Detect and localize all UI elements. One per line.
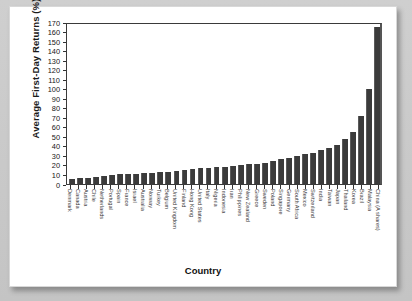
bar-cell — [164, 24, 172, 184]
x-axis-label-cell: Finland — [180, 189, 188, 267]
x-axis-label-cell: Mexico — [301, 189, 309, 267]
bar-cell — [293, 24, 301, 184]
bar-cell — [341, 24, 349, 184]
x-axis-label-cell: Taiwan — [326, 189, 334, 267]
x-axis-label: Greece — [254, 189, 260, 207]
bar-cell — [277, 24, 285, 184]
y-axis-tick-label: 10 — [52, 171, 63, 178]
bar-cell — [116, 24, 124, 184]
bar-cell — [229, 24, 237, 184]
x-axis-label-cell: Philippines — [236, 189, 244, 267]
bar-cell — [148, 24, 156, 184]
bar-cell — [365, 24, 373, 184]
x-axis-label: Israel — [132, 189, 138, 203]
bar — [77, 178, 83, 184]
y-axis-tick-label: 70 — [52, 114, 63, 121]
x-axis-label: Italy — [205, 189, 211, 199]
y-axis-tick-label: 150 — [48, 38, 63, 45]
bar-cell — [245, 24, 253, 184]
bar — [206, 168, 212, 184]
bar-cell — [253, 24, 261, 184]
y-axis-tick-label: 20 — [52, 162, 63, 169]
bar — [358, 116, 364, 184]
x-axis-label: Belgium — [164, 189, 170, 209]
bar — [334, 145, 340, 184]
x-axis-label-cell: Israel — [131, 189, 139, 267]
x-axis-labels: DenmarkCanadaAustriaChileNetherlandsPort… — [66, 189, 382, 267]
bar — [318, 150, 324, 184]
x-axis-label: South Africa — [294, 189, 300, 219]
x-axis-label-cell: India — [317, 189, 325, 267]
x-axis-label-cell: Norway — [147, 189, 155, 267]
bar — [350, 132, 356, 184]
bar — [214, 167, 220, 184]
x-axis-label-cell: South Africa — [293, 189, 301, 267]
y-axis-tick-label: 30 — [52, 152, 63, 159]
bar — [366, 89, 372, 184]
x-axis-label-cell: Singapore — [277, 189, 285, 267]
x-axis-label: Spain — [116, 189, 122, 203]
x-axis-label-cell: Poland — [269, 189, 277, 267]
bar — [326, 148, 332, 184]
y-axis-tick-label: 130 — [48, 57, 63, 64]
x-axis-label: Denmark — [67, 189, 73, 212]
x-axis-label: China (A shares) — [375, 189, 381, 231]
bar — [85, 178, 91, 184]
bar — [109, 175, 115, 184]
bar — [270, 161, 276, 184]
y-axis-tick-label: 110 — [48, 76, 63, 83]
x-axis-label: Turkey — [156, 189, 162, 206]
bar — [278, 159, 284, 184]
x-axis-label: Sweden — [262, 189, 268, 209]
bar — [230, 166, 236, 184]
x-axis-label-cell: Netherlands — [98, 189, 106, 267]
bar — [246, 164, 252, 184]
x-axis-label-cell: Australia — [139, 189, 147, 267]
bar — [222, 167, 228, 184]
x-axis-label: Singapore — [278, 189, 284, 215]
bar — [286, 158, 292, 184]
x-axis-label: Germany — [286, 189, 292, 212]
y-axis-tick-label: 80 — [52, 105, 63, 112]
x-axis-label-cell: Belgium — [163, 189, 171, 267]
x-axis-label: India — [318, 189, 324, 201]
bar — [190, 169, 196, 184]
x-axis-label: Japan — [335, 189, 341, 204]
x-axis-label: Malaysia — [367, 189, 373, 211]
y-axis-tick-label: 60 — [52, 124, 63, 131]
bar-cell — [269, 24, 277, 184]
x-axis-label: Brazil — [359, 189, 365, 203]
bar — [101, 176, 107, 184]
bar-cell — [357, 24, 365, 184]
bar-cell — [100, 24, 108, 184]
x-axis-label: Australia — [140, 189, 146, 211]
bar-cell — [301, 24, 309, 184]
x-axis-label-cell: Japan — [334, 189, 342, 267]
x-axis-label-cell: Indonesia — [220, 189, 228, 267]
x-axis-label: Philippines — [237, 189, 243, 216]
bar-cell — [221, 24, 229, 184]
bar-cell — [285, 24, 293, 184]
bar — [141, 173, 147, 184]
x-axis-title: Country — [10, 265, 396, 276]
x-axis-label: Indonesia — [221, 189, 227, 213]
bar — [69, 179, 75, 184]
y-axis-tick-label: 90 — [52, 95, 63, 102]
bar-cell — [68, 24, 76, 184]
chart-card: Average First-Day Returns (%) 1701601501… — [9, 6, 397, 287]
bar-series — [67, 24, 381, 184]
x-axis-label: Switzerland — [310, 189, 316, 218]
bar — [302, 154, 308, 184]
x-axis-label: Mexico — [302, 189, 308, 207]
y-axis-ticks: 1701601501401301201101009080706050403020… — [10, 23, 66, 185]
bar-cell — [76, 24, 84, 184]
x-axis-label-cell: Denmark — [66, 189, 74, 267]
bar — [374, 27, 380, 184]
bar — [254, 164, 260, 184]
x-axis-label-cell: Korea — [350, 189, 358, 267]
bar-cell — [197, 24, 205, 184]
bar — [238, 165, 244, 184]
bar-cell — [349, 24, 357, 184]
plot-area — [66, 23, 382, 185]
x-axis-label-cell: Germany — [285, 189, 293, 267]
